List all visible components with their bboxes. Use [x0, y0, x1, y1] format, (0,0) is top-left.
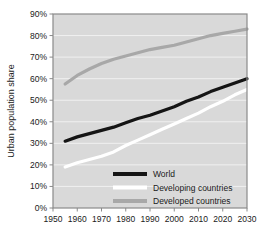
- legend-label-developed-countries: Developed countries: [153, 196, 231, 206]
- x-axis-tick-label: 2030: [238, 214, 257, 224]
- y-axis-tick-label: 80%: [30, 31, 47, 41]
- x-axis-tick-label: 1990: [141, 214, 160, 224]
- x-axis-tick-label: 2020: [213, 214, 232, 224]
- y-axis-tick-label: 0%: [35, 203, 48, 213]
- y-axis-tick-label: 70%: [30, 52, 47, 62]
- x-axis-tick-label: 2010: [189, 214, 208, 224]
- urban-population-share-chart: 0%10%20%30%40%50%60%70%80%90% 1950196019…: [0, 0, 263, 239]
- y-axis-tick-label: 10%: [30, 181, 47, 191]
- y-axis-title: Urban population share: [6, 64, 16, 158]
- x-axis-tick-label: 1960: [68, 214, 87, 224]
- x-axis-tick-label: 1950: [44, 214, 63, 224]
- y-axis-tick-label: 30%: [30, 138, 47, 148]
- legend-label-world: World: [153, 169, 175, 179]
- x-axis-tick-label: 1970: [92, 214, 111, 224]
- y-axis-tick-label: 90%: [30, 9, 47, 19]
- legend-label-developing-countries: Developing countries: [153, 183, 232, 193]
- y-axis-tick-label: 60%: [30, 74, 47, 84]
- x-axis: 195019601970198019902000201020202030: [44, 208, 257, 224]
- x-axis-tick-label: 2000: [165, 214, 184, 224]
- y-axis-tick-label: 50%: [30, 95, 47, 105]
- x-axis-tick-label: 1980: [116, 214, 135, 224]
- y-axis-tick-label: 40%: [30, 117, 47, 127]
- y-axis: 0%10%20%30%40%50%60%70%80%90%: [30, 9, 53, 213]
- chart-canvas: 0%10%20%30%40%50%60%70%80%90% 1950196019…: [0, 0, 263, 239]
- plot-area-background: [53, 14, 247, 208]
- y-axis-tick-label: 20%: [30, 160, 47, 170]
